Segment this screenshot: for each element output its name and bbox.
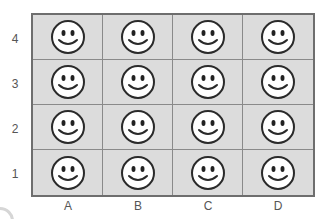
grid-cell-d2 [243, 105, 313, 150]
corner-decoration [0, 207, 14, 219]
smiley-face-icon [260, 109, 296, 145]
grid-cell-c4 [173, 15, 243, 60]
smiley-face-icon [120, 64, 156, 100]
smiley-face-icon [50, 19, 86, 55]
smiley-face-icon [50, 64, 86, 100]
row-label-1: 1 [8, 167, 22, 181]
smiley-face-icon [190, 109, 226, 145]
col-label-d: D [268, 199, 288, 213]
smiley-face-icon [50, 155, 86, 191]
grid-cell-a2 [33, 105, 103, 150]
grid-cell-a3 [33, 60, 103, 105]
smiley-face-icon [120, 155, 156, 191]
smiley-face-icon [260, 64, 296, 100]
grid-cell-a1 [33, 150, 103, 195]
smiley-face-icon [190, 19, 226, 55]
col-label-b: B [128, 199, 148, 213]
smiley-face-icon [50, 109, 86, 145]
row-label-3: 3 [8, 77, 22, 91]
row-label-4: 4 [8, 32, 22, 46]
grid-cell-b3 [103, 60, 173, 105]
grid-cell-d1 [243, 150, 313, 195]
row-label-2: 2 [8, 122, 22, 136]
smiley-face-icon [120, 109, 156, 145]
smiley-face-icon [190, 155, 226, 191]
grid-cell-b1 [103, 150, 173, 195]
col-label-c: C [198, 199, 218, 213]
smiley-face-icon [190, 64, 226, 100]
grid-cell-c3 [173, 60, 243, 105]
smiley-face-icon [120, 19, 156, 55]
col-label-a: A [58, 199, 78, 213]
grid-cell-d4 [243, 15, 313, 60]
grid-cell-b2 [103, 105, 173, 150]
grid-cell-c1 [173, 150, 243, 195]
smiley-face-icon [260, 19, 296, 55]
grid-cell-d3 [243, 60, 313, 105]
grid-cell-c2 [173, 105, 243, 150]
grid-cell-a4 [33, 15, 103, 60]
smiley-face-icon [260, 155, 296, 191]
smiley-grid [31, 13, 315, 197]
grid-cell-b4 [103, 15, 173, 60]
